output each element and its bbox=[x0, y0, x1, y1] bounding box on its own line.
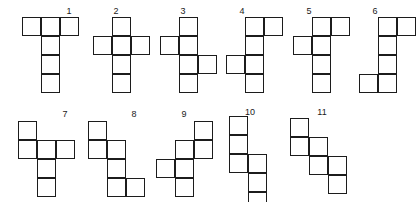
net-4-square-4 bbox=[226, 55, 245, 74]
net-9-square-6 bbox=[175, 178, 194, 197]
net-2-square-6 bbox=[112, 74, 131, 93]
net-1-square-5 bbox=[41, 55, 60, 74]
net-label-6: 6 bbox=[365, 6, 385, 16]
net-5-square-5 bbox=[312, 55, 331, 74]
net-7-square-6 bbox=[37, 178, 56, 197]
net-9-square-4 bbox=[156, 159, 175, 178]
net-9-square-3 bbox=[194, 140, 213, 159]
net-11-square-6 bbox=[328, 175, 347, 194]
net-3-square-1 bbox=[179, 17, 198, 36]
net-1-square-2 bbox=[41, 17, 60, 36]
cube-nets-figure: 1234567891011 bbox=[0, 0, 420, 202]
net-label-2: 2 bbox=[106, 6, 126, 16]
net-2-square-4 bbox=[131, 36, 150, 55]
net-6-square-5 bbox=[359, 74, 378, 93]
net-label-3: 3 bbox=[173, 6, 193, 16]
net-1-square-4 bbox=[41, 36, 60, 55]
net-9-square-2 bbox=[175, 140, 194, 159]
net-3-square-3 bbox=[179, 36, 198, 55]
net-8-square-4 bbox=[107, 159, 126, 178]
net-5-square-6 bbox=[312, 74, 331, 93]
net-label-4: 4 bbox=[232, 6, 252, 16]
net-2-square-1 bbox=[112, 17, 131, 36]
net-label-7: 7 bbox=[55, 109, 75, 119]
net-1-square-1 bbox=[22, 17, 41, 36]
net-3-square-4 bbox=[179, 55, 198, 74]
net-9-square-1 bbox=[194, 121, 213, 140]
net-4-square-6 bbox=[245, 74, 264, 93]
net-8-square-6 bbox=[126, 178, 145, 197]
net-11-square-5 bbox=[328, 156, 347, 175]
net-11-square-1 bbox=[290, 118, 309, 137]
net-7-square-4 bbox=[56, 140, 75, 159]
net-5-square-3 bbox=[293, 36, 312, 55]
net-2-square-2 bbox=[93, 36, 112, 55]
net-2-square-5 bbox=[112, 55, 131, 74]
net-label-5: 5 bbox=[299, 6, 319, 16]
net-10-square-2 bbox=[229, 135, 248, 154]
net-3-square-6 bbox=[179, 74, 198, 93]
net-10-square-3 bbox=[229, 154, 248, 173]
net-10-square-4 bbox=[248, 154, 267, 173]
net-10-square-5 bbox=[248, 173, 267, 192]
net-8-square-3 bbox=[107, 140, 126, 159]
net-9-square-5 bbox=[175, 159, 194, 178]
net-1-square-3 bbox=[60, 17, 79, 36]
net-11-square-4 bbox=[309, 156, 328, 175]
net-10-square-1 bbox=[229, 116, 248, 135]
net-11-square-2 bbox=[290, 137, 309, 156]
net-7-square-2 bbox=[18, 140, 37, 159]
net-4-square-5 bbox=[245, 55, 264, 74]
net-3-square-2 bbox=[160, 36, 179, 55]
net-5-square-2 bbox=[331, 17, 350, 36]
net-6-square-6 bbox=[378, 74, 397, 93]
net-label-1: 1 bbox=[59, 6, 79, 16]
net-2-square-3 bbox=[112, 36, 131, 55]
net-8-square-2 bbox=[88, 140, 107, 159]
net-label-9: 9 bbox=[174, 109, 194, 119]
net-7-square-5 bbox=[37, 159, 56, 178]
net-6-square-3 bbox=[378, 36, 397, 55]
net-4-square-2 bbox=[264, 17, 283, 36]
net-label-11: 11 bbox=[312, 107, 332, 117]
net-11-square-3 bbox=[309, 137, 328, 156]
net-10-square-6 bbox=[248, 192, 267, 202]
net-8-square-5 bbox=[107, 178, 126, 197]
net-6-square-4 bbox=[378, 55, 397, 74]
net-5-square-4 bbox=[312, 36, 331, 55]
net-4-square-3 bbox=[245, 36, 264, 55]
net-4-square-1 bbox=[245, 17, 264, 36]
net-label-8: 8 bbox=[124, 109, 144, 119]
net-6-square-1 bbox=[378, 17, 397, 36]
net-7-square-1 bbox=[18, 121, 37, 140]
net-3-square-5 bbox=[198, 55, 217, 74]
net-6-square-2 bbox=[397, 17, 416, 36]
net-1-square-6 bbox=[41, 74, 60, 93]
net-7-square-3 bbox=[37, 140, 56, 159]
net-8-square-1 bbox=[88, 121, 107, 140]
net-5-square-1 bbox=[312, 17, 331, 36]
